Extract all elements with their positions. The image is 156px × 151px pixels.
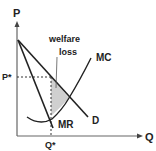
x-axis-arrow-icon — [137, 134, 143, 139]
mc-label: MC — [96, 52, 112, 63]
marginal-revenue-curve — [18, 40, 53, 128]
quantity-label: Q* — [45, 140, 56, 150]
x-axis-label: Q — [145, 131, 154, 143]
mr-label: MR — [58, 119, 74, 130]
welfare-label-line2: loss — [59, 47, 77, 57]
y-axis-label: P — [13, 7, 20, 19]
welfare-loss-diagram: P Q P* Q* welfare loss MC MR D — [0, 0, 156, 151]
welfare-label-line1: welfare — [48, 34, 80, 44]
price-label: P* — [2, 72, 12, 82]
d-label: D — [92, 115, 99, 126]
y-axis-arrow-icon — [15, 21, 20, 27]
